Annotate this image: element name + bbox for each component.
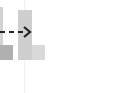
dashed-arrow-icon (0, 26, 34, 38)
right-l-foot (32, 45, 45, 60)
left-l-base (0, 45, 13, 60)
